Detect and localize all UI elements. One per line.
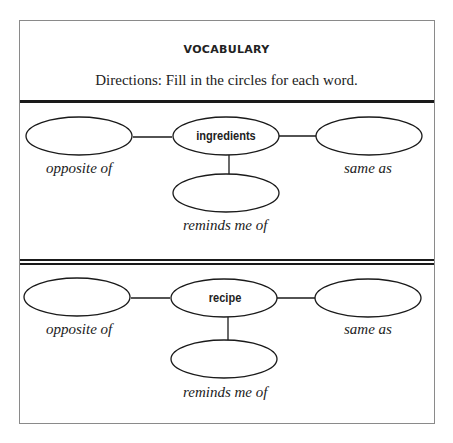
- opposite-label-2: opposite of: [46, 321, 112, 338]
- reminds-label-2: reminds me of: [183, 384, 267, 401]
- vocab-word-2: recipe: [178, 290, 272, 305]
- same-circle-1[interactable]: [316, 117, 422, 155]
- same-circle-2[interactable]: [315, 279, 421, 317]
- same-label-1: same as: [344, 160, 392, 177]
- vocab-word-1: ingredients: [179, 128, 273, 143]
- reminds-circle-1[interactable]: [173, 174, 279, 212]
- opposite-label-1: opposite of: [46, 160, 112, 177]
- reminds-circle-2[interactable]: [171, 340, 277, 378]
- opposite-circle-1[interactable]: [26, 117, 132, 155]
- same-label-2: same as: [344, 321, 392, 338]
- opposite-circle-2[interactable]: [24, 278, 130, 316]
- reminds-label-1: reminds me of: [183, 217, 267, 234]
